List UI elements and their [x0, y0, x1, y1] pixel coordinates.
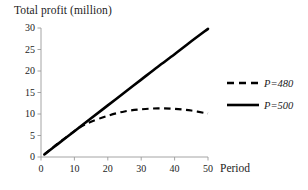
x-tick-label: 10	[69, 163, 79, 174]
legend-dashed-line-icon	[226, 78, 260, 88]
y-tick-label: 25	[25, 44, 35, 55]
y-tick-label: 10	[25, 108, 35, 119]
x-tick-label: 40	[170, 163, 180, 174]
x-tick-label: 0	[39, 163, 44, 174]
x-tick-label: 50	[203, 163, 213, 174]
series-group	[44, 29, 208, 155]
y-tick-label: 30	[25, 22, 35, 33]
y-tick-label: 15	[25, 87, 35, 98]
legend-label: P=500	[264, 100, 293, 111]
legend-label: P=480	[264, 78, 293, 89]
x-axis-title: Period	[220, 162, 250, 174]
x-tick-label: 20	[103, 163, 113, 174]
y-tick-label: 20	[25, 65, 35, 76]
legend-item[interactable]: P=480	[226, 72, 306, 94]
chart-container: Total profit (million) 05101520253001020…	[0, 0, 308, 190]
series-line-p-500	[44, 29, 208, 155]
legend-solid-line-icon	[226, 100, 260, 110]
series-line-p-480	[44, 108, 208, 154]
y-tick-label: 0	[30, 151, 35, 162]
chart-legend: P=480P=500	[226, 72, 306, 116]
legend-item[interactable]: P=500	[226, 94, 306, 116]
x-tick-label: 30	[136, 163, 146, 174]
y-tick-label: 5	[30, 130, 35, 141]
